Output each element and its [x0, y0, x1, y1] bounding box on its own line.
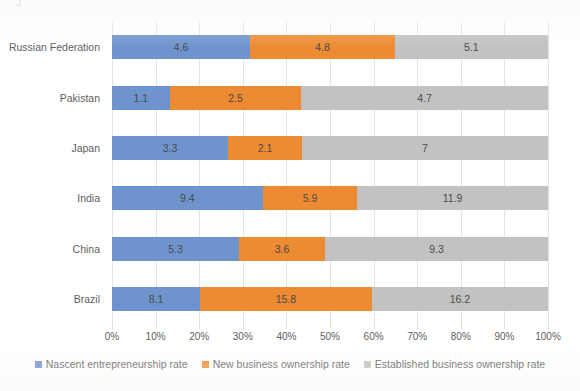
bar-row[interactable]: 4.64.85.1: [112, 35, 548, 59]
bar-segment[interactable]: 16.2: [372, 287, 548, 311]
bar-row[interactable]: 1.12.54.7: [112, 86, 548, 110]
bar-value-label: 5.9: [303, 192, 318, 204]
bar-value-label: 11.9: [443, 192, 463, 204]
x-tick-label: 20%: [189, 331, 209, 342]
x-tick-label: 40%: [276, 331, 296, 342]
bar-segment[interactable]: 2.5: [170, 86, 301, 110]
bar-segment[interactable]: 8.1: [112, 287, 200, 311]
x-tick-label: 70%: [407, 331, 427, 342]
chart-legend: Nascent entrepreneurship rateNew busines…: [0, 358, 580, 370]
legend-item[interactable]: New business ownership rate: [202, 358, 350, 370]
bar-value-label: 5.3: [168, 243, 183, 255]
category-label: Brazil: [74, 287, 100, 311]
category-label: Japan: [71, 136, 100, 160]
x-tick-label: 60%: [364, 331, 384, 342]
bar-value-label: 5.1: [464, 41, 479, 53]
bar-value-label: 4.6: [174, 41, 189, 53]
x-tick-label: 10%: [146, 331, 166, 342]
bar-segment[interactable]: 9.3: [325, 237, 548, 261]
x-tick-mark: [156, 324, 157, 329]
legend-swatch-icon: [364, 361, 371, 368]
category-label: China: [73, 237, 100, 261]
bar-value-label: 16.2: [450, 293, 470, 305]
bar-segment[interactable]: 4.7: [301, 86, 548, 110]
scan-artifact-text: J: [16, 0, 22, 8]
x-tick-label: 90%: [494, 331, 514, 342]
x-tick-mark: [330, 324, 331, 329]
bar-segment[interactable]: 7: [302, 136, 548, 160]
bar-segment[interactable]: 9.4: [112, 186, 263, 210]
x-tick-mark: [243, 324, 244, 329]
bar-value-label: 3.3: [163, 142, 178, 154]
bar-value-label: 4.7: [417, 92, 432, 104]
bar-row[interactable]: 8.115.816.2: [112, 287, 548, 311]
gridline-100: [548, 22, 549, 324]
stacked-bar-chart: J Russian FederationPakistanJapanIndiaCh…: [0, 0, 580, 391]
bar-segment[interactable]: 11.9: [357, 186, 548, 210]
x-tick-mark: [112, 324, 113, 329]
bar-value-label: 1.1: [134, 92, 149, 104]
legend-label: Established business ownership rate: [375, 358, 545, 370]
bar-value-label: 9.4: [180, 192, 195, 204]
bar-row[interactable]: 5.33.69.3: [112, 237, 548, 261]
category-axis-labels: Russian FederationPakistanJapanIndiaChin…: [0, 22, 106, 324]
bar-segment[interactable]: 4.8: [250, 35, 394, 59]
x-tick-label: 100%: [535, 331, 561, 342]
bar-segment[interactable]: 2.1: [228, 136, 302, 160]
bar-value-label: 15.8: [276, 293, 296, 305]
bar-segment[interactable]: 15.8: [200, 287, 372, 311]
bar-row[interactable]: 3.32.17: [112, 136, 548, 160]
bar-value-label: 2.1: [258, 142, 273, 154]
bar-value-label: 2.5: [228, 92, 243, 104]
x-tick-label: 50%: [320, 331, 340, 342]
category-label: Pakistan: [60, 86, 100, 110]
x-tick-mark: [548, 324, 549, 329]
x-tick-mark: [374, 324, 375, 329]
x-tick-label: 0%: [105, 331, 119, 342]
legend-item[interactable]: Established business ownership rate: [364, 358, 545, 370]
x-tick-mark: [417, 324, 418, 329]
bar-segment[interactable]: 5.9: [263, 186, 358, 210]
bar-segment[interactable]: 5.3: [112, 237, 239, 261]
bar-value-label: 4.8: [315, 41, 330, 53]
plot-area: 4.64.85.11.12.54.73.32.179.45.911.95.33.…: [112, 22, 548, 324]
legend-label: New business ownership rate: [213, 358, 350, 370]
x-tick-mark: [504, 324, 505, 329]
legend-label: Nascent entrepreneurship rate: [46, 358, 188, 370]
x-tick-label: 80%: [451, 331, 471, 342]
x-tick-mark: [199, 324, 200, 329]
bars-layer: 4.64.85.11.12.54.73.32.179.45.911.95.33.…: [112, 22, 548, 324]
category-label: India: [77, 186, 100, 210]
category-label: Russian Federation: [9, 35, 100, 59]
legend-swatch-icon: [202, 361, 209, 368]
legend-item[interactable]: Nascent entrepreneurship rate: [35, 358, 188, 370]
bar-value-label: 8.1: [149, 293, 164, 305]
x-tick-label: 30%: [233, 331, 253, 342]
bar-segment[interactable]: 1.1: [112, 86, 170, 110]
bar-segment[interactable]: 3.3: [112, 136, 228, 160]
bar-segment[interactable]: 3.6: [239, 237, 325, 261]
bar-segment[interactable]: 4.6: [112, 35, 250, 59]
bar-value-label: 3.6: [275, 243, 290, 255]
x-tick-mark: [286, 324, 287, 329]
bar-value-label: 9.3: [429, 243, 444, 255]
legend-swatch-icon: [35, 361, 42, 368]
bar-segment[interactable]: 5.1: [395, 35, 548, 59]
x-axis: 0%10%20%30%40%50%60%70%80%90%100%: [112, 324, 548, 346]
x-tick-mark: [461, 324, 462, 329]
bar-value-label: 7: [422, 142, 428, 154]
bar-row[interactable]: 9.45.911.9: [112, 186, 548, 210]
